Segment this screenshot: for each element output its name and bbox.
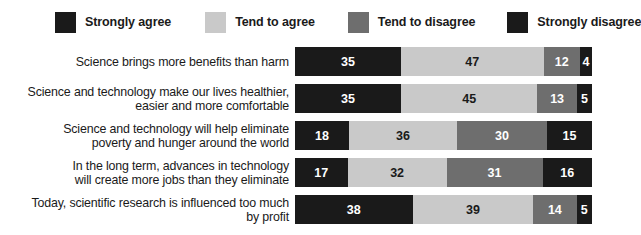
bar-segment-value: 35 [341,92,355,106]
chart-row: Science brings more benefits than harm35… [0,47,615,76]
bar-segment-strongly-disagree[interactable]: 5 [577,195,592,224]
bar-segment-tend-to-agree[interactable]: 32 [348,158,447,187]
bar-segment-strongly-agree[interactable]: 17 [295,158,348,187]
chart-row-label-line: Science and technology will help elimina… [0,122,289,136]
bar-segment-value: 5 [581,203,588,217]
bar-segment-value: 30 [495,129,509,143]
chart-row: Science and technology make our lives he… [0,84,615,113]
bar-segment-strongly-agree[interactable]: 35 [295,84,401,113]
legend-item-tend-to-disagree: Tend to disagree [348,9,476,35]
chart-row-label: Today, scientific research is influenced… [0,196,295,224]
bar-segment-tend-to-agree[interactable]: 47 [401,47,543,76]
bar-segment-tend-to-agree[interactable]: 36 [349,121,457,150]
bar-segment-value: 31 [488,166,502,180]
chart-row-label: In the long term, advances in technology… [0,159,295,187]
bar-segment-tend-to-disagree[interactable]: 13 [537,84,576,113]
stacked-bar: 3545135 [295,84,592,113]
legend-label-tend-to-disagree: Tend to disagree [378,15,476,29]
legend-swatch-tend-to-disagree-icon [348,12,369,33]
bar-segment-strongly-agree[interactable]: 35 [295,47,401,76]
bar-segment-value: 15 [563,129,577,143]
chart-row: Today, scientific research is influenced… [0,195,615,224]
bar-segment-value: 4 [582,55,589,69]
bar-segment-value: 12 [555,55,569,69]
chart-row-label-line: Science and technology make our lives he… [0,85,289,99]
chart-row-label-line: easier and more comfortable [0,99,289,113]
bar-segment-value: 18 [315,129,329,143]
bar-segment-value: 13 [550,92,564,106]
bar-segment-strongly-agree[interactable]: 38 [295,195,413,224]
stacked-bar: 17323116 [295,158,592,187]
chart-row-label: Science brings more benefits than harm [0,55,295,69]
bar-segment-tend-to-disagree[interactable]: 14 [533,195,576,224]
bar-segment-strongly-disagree[interactable]: 4 [580,47,592,76]
chart-row-label-line: Science brings more benefits than harm [0,55,289,69]
bar-segment-value: 38 [347,203,361,217]
bar-segment-value: 16 [560,166,574,180]
bar-segment-value: 45 [462,92,476,106]
bar-segment-strongly-agree[interactable]: 18 [295,121,349,150]
chart-row-label: Science and technology will help elimina… [0,122,295,150]
legend-item-strongly-disagree: Strongly disagree [507,9,641,35]
bar-segment-value: 17 [314,166,328,180]
chart-row-label-line: Today, scientific research is influenced… [0,196,289,210]
legend-swatch-strongly-agree-icon [55,12,76,33]
legend-swatch-tend-to-agree-icon [205,12,226,33]
bar-segment-value: 5 [581,92,588,106]
bar-segment-value: 32 [390,166,404,180]
bar-segment-strongly-disagree[interactable]: 15 [547,121,592,150]
bar-segment-value: 47 [465,55,479,69]
chart-row-label: Science and technology make our lives he… [0,85,295,113]
stacked-bar: 3547124 [295,47,592,76]
chart-row-label-line: will create more jobs than they eliminat… [0,173,289,187]
legend-item-strongly-agree: Strongly agree [55,9,171,35]
legend-swatch-strongly-disagree-icon [507,12,528,33]
bar-segment-tend-to-disagree[interactable]: 30 [457,121,547,150]
bar-segment-value: 39 [466,203,480,217]
bar-segment-value: 14 [548,203,562,217]
bar-segment-strongly-disagree[interactable]: 5 [577,84,592,113]
bar-segment-tend-to-disagree[interactable]: 31 [447,158,543,187]
legend-label-strongly-agree: Strongly agree [85,15,171,29]
chart-row-label-line: In the long term, advances in technology [0,159,289,173]
legend-item-tend-to-agree: Tend to agree [205,9,315,35]
stacked-bar: 3839145 [295,195,592,224]
bar-segment-strongly-disagree[interactable]: 16 [543,158,593,187]
bar-segment-tend-to-disagree[interactable]: 12 [544,47,580,76]
chart-row: Science and technology will help elimina… [0,121,615,150]
bar-segment-tend-to-agree[interactable]: 39 [413,195,534,224]
chart-row-label-line: poverty and hunger around the world [0,136,289,150]
chart-row-label-line: by profit [0,210,289,224]
bar-segment-value: 36 [396,129,410,143]
bar-segment-value: 35 [341,55,355,69]
bar-segment-tend-to-agree[interactable]: 45 [401,84,537,113]
legend-label-strongly-disagree: Strongly disagree [537,15,641,29]
chart-row: In the long term, advances in technology… [0,158,615,187]
legend-label-tend-to-agree: Tend to agree [235,15,315,29]
stacked-bar-chart: Science brings more benefits than harm35… [0,47,615,232]
stacked-bar: 18363015 [295,121,592,150]
chart-legend: Strongly agree Tend to agree Tend to dis… [0,9,615,35]
